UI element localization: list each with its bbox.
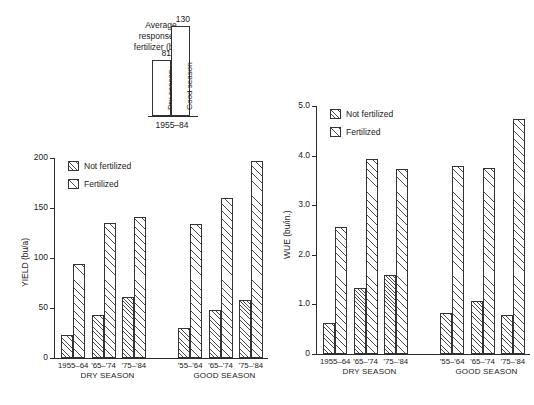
bar-not-fertilized (471, 301, 483, 354)
bar-not-fertilized (92, 315, 104, 358)
y-tick (312, 304, 316, 305)
bar-fertilized (513, 119, 525, 354)
bar-fertilized (104, 223, 116, 358)
inset-x-axis (148, 116, 198, 117)
legend-swatch-fertilized (68, 179, 79, 189)
x-tick-label: '75–'84 (487, 357, 534, 366)
y-tick-label: 50 (18, 303, 48, 312)
bar-not-fertilized (354, 288, 366, 354)
bar-not-fertilized (209, 310, 221, 358)
yield-chart-panel: 050100150200YIELD (bu/a)1955–64'65–'74'7… (14, 136, 272, 396)
y-tick (312, 106, 316, 107)
group-label: DRY SEASON (320, 367, 420, 376)
y-tick (312, 255, 316, 256)
x-tick-label: '75–'84 (370, 357, 422, 366)
y-tick (50, 358, 54, 359)
inset-bar-label: Good season (185, 62, 194, 110)
x-axis (54, 358, 268, 359)
group-label: GOOD SEASON (437, 367, 534, 376)
y-tick-label: 1.0 (280, 299, 310, 308)
bar-not-fertilized (440, 313, 452, 354)
bar-fertilized (335, 227, 347, 354)
legend-swatch-fertilized (330, 127, 341, 137)
legend-label: Fertilized (84, 179, 118, 190)
bar-not-fertilized (122, 297, 134, 358)
y-tick-label: 200 (18, 153, 48, 162)
legend-swatch-not-fertilized (330, 109, 341, 119)
wue-chart-panel: 01.02.03.04.05.0WUE (bu/in.)1955–64'65–'… (276, 88, 534, 396)
y-tick (50, 158, 54, 159)
bar-fertilized (251, 161, 263, 358)
x-axis (316, 354, 530, 355)
y-tick (312, 354, 316, 355)
bar-not-fertilized (61, 335, 73, 358)
inset-plot-area: 81Dry season130Good season1955–84 (118, 2, 238, 130)
bar-fertilized (134, 217, 146, 358)
x-tick-label: '75–'84 (108, 361, 160, 370)
y-tick-label: 3.0 (280, 200, 310, 209)
bar-fertilized (190, 224, 202, 358)
legend-label: Not fertilized (346, 109, 393, 120)
y-tick (50, 208, 54, 209)
inset-bar-value: 81 (140, 49, 171, 58)
caption-bleed (0, 396, 534, 405)
y-axis-title: WUE (bu/in.) (282, 210, 292, 259)
y-axis (54, 158, 55, 358)
bar-fertilized (452, 166, 464, 354)
group-label: DRY SEASON (58, 371, 158, 380)
inset-bar-value: 130 (159, 15, 190, 24)
bar-fertilized (221, 198, 233, 358)
y-axis-title: YIELD (bu/a) (20, 238, 30, 287)
legend-swatch-not-fertilized (68, 161, 79, 171)
bar-not-fertilized (501, 315, 513, 354)
group-label: GOOD SEASON (175, 371, 275, 380)
y-tick (50, 308, 54, 309)
y-axis (316, 106, 317, 354)
y-tick-label: 0 (18, 353, 48, 362)
y-tick-label: 4.0 (280, 151, 310, 160)
legend-label: Not fertilized (84, 161, 131, 172)
legend-label: Fertilized (346, 127, 380, 138)
inset-chart: Average response to fertilizer (bu/a) 81… (118, 2, 238, 130)
y-tick (50, 258, 54, 259)
x-tick-label: '75–'84 (225, 361, 277, 370)
bar-fertilized (366, 159, 378, 354)
figure-canvas: Average response to fertilizer (bu/a) 81… (0, 0, 534, 405)
y-tick (312, 156, 316, 157)
bar-fertilized (483, 168, 495, 354)
bar-not-fertilized (178, 328, 190, 358)
bar-fertilized (396, 169, 408, 354)
inset-x-label: 1955–84 (130, 120, 214, 130)
y-tick-label: 5.0 (280, 101, 310, 110)
bar-not-fertilized (384, 275, 396, 354)
bar-fertilized (73, 264, 85, 358)
bar-not-fertilized (323, 323, 335, 354)
y-tick-label: 0 (280, 349, 310, 358)
y-tick-label: 150 (18, 203, 48, 212)
y-tick (312, 205, 316, 206)
bar-not-fertilized (239, 300, 251, 358)
